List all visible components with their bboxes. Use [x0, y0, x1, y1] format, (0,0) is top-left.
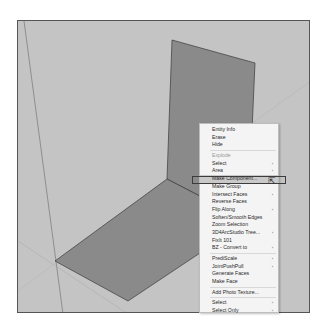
menu-item-label: Hide [212, 141, 223, 147]
menu-item-label: PrediScale [212, 255, 237, 261]
menu-item-label: Select Only [212, 307, 239, 313]
menu-item-label: Make Component... [212, 175, 257, 181]
blue-axis-line [24, 21, 63, 313]
menu-item-label: 3D4ArcStudio Tree... [212, 229, 260, 235]
menu-item-make-face[interactable]: Make Face [200, 278, 278, 286]
menu-item-label: Add Photo Texture... [212, 289, 259, 295]
menu-item-label: FixIt 101 [212, 237, 232, 243]
menu-item-prediscale[interactable]: PrediScale› [200, 255, 278, 263]
menu-item-3d4arcstudio-tree[interactable]: 3D4ArcStudio Tree...› [200, 229, 278, 237]
menu-item-entity-info[interactable]: Entity Info [200, 126, 278, 134]
menu-item-fixit-101[interactable]: FixIt 101 [200, 237, 278, 245]
menu-item-label: Generate Faces [212, 270, 249, 276]
red-axis-line [248, 81, 310, 126]
menu-separator [210, 297, 276, 298]
menu-item-zoom-selection[interactable]: Zoom Selection [200, 221, 278, 229]
submenu-arrow-icon: › [272, 244, 273, 252]
menu-item-label: Zoom Selection [212, 221, 248, 227]
menu-item-erase[interactable]: Erase [200, 134, 278, 142]
menu-item-explode[interactable]: Explode [200, 152, 278, 160]
submenu-arrow-icon: › [272, 167, 273, 175]
menu-item-select[interactable]: Select› [200, 299, 278, 307]
menu-item-label: Select [212, 160, 226, 166]
submenu-arrow-icon: › [272, 191, 273, 199]
submenu-arrow-icon: › [272, 160, 273, 168]
submenu-arrow-icon: › [272, 206, 273, 214]
menu-item-reverse-faces[interactable]: Reverse Faces [200, 198, 278, 206]
submenu-arrow-icon: › [272, 229, 273, 237]
submenu-arrow-icon: › [272, 255, 273, 263]
menu-separator [210, 287, 276, 288]
menu-item-hide[interactable]: Hide [200, 141, 278, 149]
guide-line [18, 261, 58, 291]
menu-item-label: JointPushPull [212, 263, 243, 269]
menu-item-make-component[interactable]: Make Component... [200, 175, 278, 183]
menu-separator [210, 253, 276, 254]
menu-item-label: Erase [212, 134, 226, 140]
menu-item-select-only[interactable]: Select Only› [200, 307, 278, 315]
submenu-arrow-icon: › [272, 263, 273, 271]
menu-item-label: Flip Along [212, 206, 235, 212]
context-menu: Entity InfoEraseHideExplodeSelect›Area›M… [199, 123, 279, 313]
menu-item-flip-along[interactable]: Flip Along› [200, 206, 278, 214]
menu-item-label: Reverse Faces [212, 198, 247, 204]
menu-item-label: Select [212, 299, 226, 305]
menu-item-bz-convert-to[interactable]: BZ - Convert to› [200, 244, 278, 252]
menu-item-intersect-faces[interactable]: Intersect Faces› [200, 191, 278, 199]
menu-item-label: Make Face [212, 278, 238, 284]
menu-item-label: Intersect Faces [212, 191, 247, 197]
menu-item-label: Area [212, 167, 223, 173]
menu-item-area[interactable]: Area› [200, 167, 278, 175]
menu-item-label: Entity Info [212, 126, 235, 132]
menu-item-select[interactable]: Select› [200, 160, 278, 168]
menu-item-soften-smooth-edges[interactable]: Soften/Smooth Edges [200, 214, 278, 222]
menu-item-label: Make Group [212, 183, 241, 189]
menu-item-add-photo-texture[interactable]: Add Photo Texture... [200, 289, 278, 297]
menu-item-make-group[interactable]: Make Group [200, 183, 278, 191]
menu-item-label: BZ - Convert to [212, 244, 247, 250]
menu-item-generate-faces[interactable]: Generate Faces [200, 270, 278, 278]
submenu-arrow-icon: › [272, 299, 273, 307]
submenu-arrow-icon: › [272, 307, 273, 315]
menu-separator [210, 150, 276, 151]
menu-item-label: Explode [212, 152, 231, 158]
menu-item-label: Soften/Smooth Edges [212, 214, 262, 220]
menu-item-jointpushpull[interactable]: JointPushPull› [200, 263, 278, 271]
mouse-pointer-icon: ⇱ [268, 176, 276, 186]
